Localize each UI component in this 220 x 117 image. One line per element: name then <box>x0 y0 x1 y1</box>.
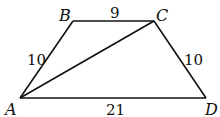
length-label-bc: 9 <box>110 4 120 22</box>
vertex-label-c: C <box>156 6 168 25</box>
vertex-label-b: B <box>58 6 71 25</box>
length-label-ad: 21 <box>106 101 125 117</box>
vertex-label-d: D <box>204 100 218 117</box>
length-label-ab: 10 <box>27 51 46 69</box>
vertex-label-a: A <box>3 100 17 117</box>
length-label-cd: 10 <box>184 51 203 69</box>
trapezoid-diagram: A B C D 10 9 10 21 <box>0 0 220 117</box>
